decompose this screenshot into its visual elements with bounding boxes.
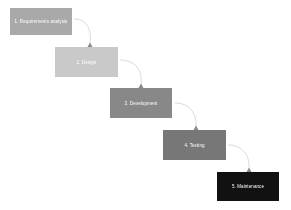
connector-3-to-4 [175, 103, 199, 130]
connector-1-to-2 [74, 19, 93, 47]
step-requirements-analysis: 1. Requirements analysis [10, 8, 72, 35]
connector-4-to-5 [228, 145, 252, 172]
step-testing: 4. Testing [163, 130, 226, 160]
step-maintenance: 5. Maintenance [217, 172, 279, 201]
step-label: 1. Requirements analysis [15, 19, 68, 24]
step-design: 2. Design [55, 47, 118, 77]
step-label: 3. Development [125, 101, 158, 106]
connector-2-to-3 [120, 60, 144, 88]
waterfall-diagram: 1. Requirements analysis 2. Design 3. De… [0, 0, 291, 210]
step-development: 3. Development [110, 88, 172, 118]
step-label: 5. Maintenance [232, 184, 264, 189]
step-label: 2. Design [77, 60, 97, 65]
step-label: 4. Testing [184, 143, 204, 148]
